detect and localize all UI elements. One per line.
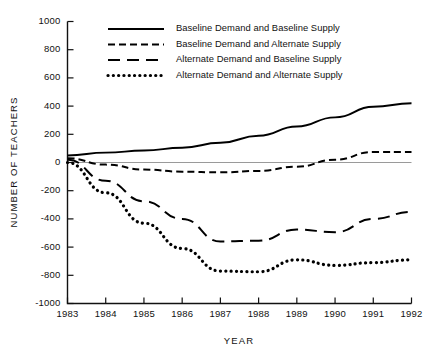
chart-container: 10008006004002000-200-400-600-800-1000 1… <box>0 0 432 354</box>
x-tick-label: 1988 <box>248 308 270 319</box>
series-line-4 <box>68 163 412 272</box>
y-tick-label: -400 <box>41 212 61 223</box>
y-tick-label: 600 <box>44 71 60 82</box>
series-line-3 <box>68 160 412 242</box>
x-tick-label: 1989 <box>286 308 308 319</box>
line-chart: 10008006004002000-200-400-600-800-1000 1… <box>0 0 432 354</box>
y-axis-tick-labels: 10008006004002000-200-400-600-800-1000 <box>35 15 60 308</box>
series-line-1 <box>68 103 412 155</box>
x-tick-label: 1991 <box>362 308 384 319</box>
x-tick-label: 1986 <box>171 308 193 319</box>
y-tick-label: 800 <box>44 43 60 54</box>
chart-legend: Baseline Demand and Baseline SupplyBasel… <box>108 22 343 80</box>
y-tick-label: 1000 <box>39 15 61 26</box>
y-axis-title: NUMBER OF TEACHERS <box>8 97 19 228</box>
y-tick-label: 400 <box>44 100 60 111</box>
x-tick-label: 1992 <box>401 308 423 319</box>
x-tick-label: 1985 <box>133 308 155 319</box>
x-tick-label: 1987 <box>209 308 231 319</box>
legend-label-2: Baseline Demand and Alternate Supply <box>176 38 341 49</box>
y-tick-label: 200 <box>44 128 60 139</box>
y-tick-label: 0 <box>55 156 60 167</box>
y-tick-label: -800 <box>41 269 61 280</box>
x-axis-ticks <box>68 298 412 304</box>
legend-label-4: Alternate Demand and Alternate Supply <box>176 69 343 80</box>
x-tick-label: 1984 <box>95 308 117 319</box>
legend-label-1: Baseline Demand and Baseline Supply <box>176 22 340 33</box>
y-tick-label: -1000 <box>35 297 60 308</box>
x-tick-label: 1990 <box>324 308 346 319</box>
legend-label-3: Alternate Demand and Baseline Supply <box>176 53 342 64</box>
y-tick-label: -600 <box>41 241 61 252</box>
y-tick-label: -200 <box>41 184 61 195</box>
x-tick-label: 1983 <box>57 308 79 319</box>
data-series-group <box>68 103 412 271</box>
x-axis-tick-labels: 1983198419851986198719881989199019911992 <box>57 308 423 319</box>
x-axis-title: YEAR <box>224 335 254 346</box>
